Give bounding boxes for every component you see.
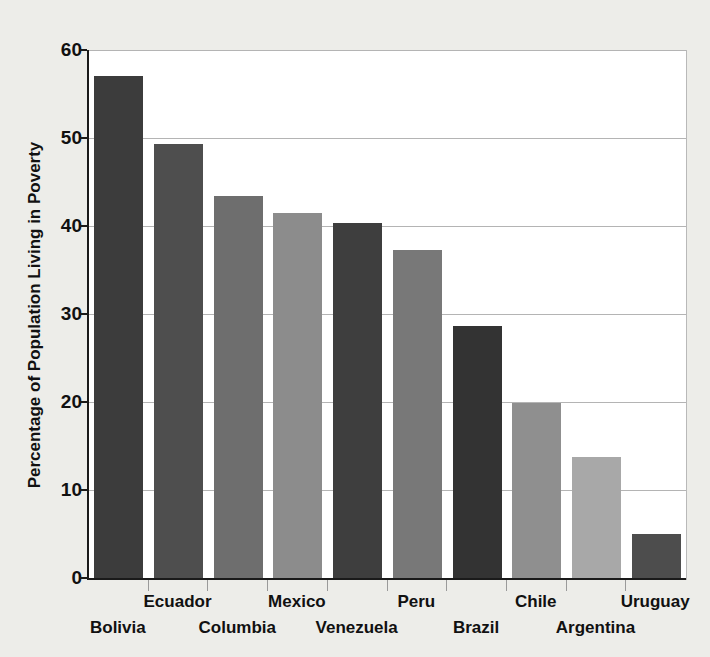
x-tick-mark-1 [148,580,149,591]
x-label-brazil: Brazil [453,618,499,638]
bar-chart-figure: 0102030405060 Percentage of Population L… [0,0,710,657]
x-label-peru: Peru [397,592,435,612]
x-tick-mark-4 [327,580,328,591]
y-axis-line [87,50,89,579]
x-tick-mark-7 [506,580,507,591]
y-tick-mark-60 [80,49,87,51]
x-tick-mark-6 [446,580,447,591]
x-label-mexico: Mexico [268,592,326,612]
bar-argentina[interactable] [572,457,621,579]
bar-brazil[interactable] [453,326,502,579]
x-label-uruguay: Uruguay [621,592,690,612]
x-tick-mark-5 [387,580,388,591]
bar-chile[interactable] [512,403,561,579]
x-label-argentina: Argentina [556,618,635,638]
x-label-columbia: Columbia [199,618,276,638]
bar-ecuador[interactable] [154,144,203,579]
x-label-bolivia: Bolivia [90,618,146,638]
y-tick-mark-30 [80,313,87,315]
y-tick-mark-50 [80,137,87,139]
y-tick-mark-0 [80,577,87,579]
x-tick-mark-8 [566,580,567,591]
bar-series [89,51,686,579]
bar-venezuela[interactable] [333,223,382,579]
bar-columbia[interactable] [214,196,263,579]
x-tick-mark-2 [207,580,208,591]
bar-peru[interactable] [393,250,442,579]
y-axis-title: Percentage of Population Living in Pover… [25,55,45,575]
x-label-chile: Chile [515,592,557,612]
bar-uruguay[interactable] [632,534,681,579]
bar-bolivia[interactable] [94,76,143,579]
bar-mexico[interactable] [273,213,322,579]
y-tick-mark-40 [80,225,87,227]
plot-area [88,50,687,580]
x-label-ecuador: Ecuador [144,592,212,612]
x-tick-mark-3 [267,580,268,591]
x-tick-mark-9 [625,580,626,591]
y-tick-mark-20 [80,401,87,403]
y-tick-mark-10 [80,489,87,491]
x-label-venezuela: Venezuela [316,618,398,638]
